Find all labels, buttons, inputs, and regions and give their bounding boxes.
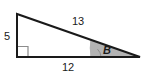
- right-triangle-figure: 5 13 12 B: [0, 0, 152, 78]
- label-leg-vertical: 5: [4, 31, 10, 42]
- label-leg-base: 12: [62, 62, 74, 73]
- label-hypotenuse: 13: [72, 16, 84, 27]
- triangle-diagram-svg: [0, 0, 152, 78]
- label-angle-b: B: [103, 45, 111, 56]
- right-angle-marker-icon: [18, 47, 28, 57]
